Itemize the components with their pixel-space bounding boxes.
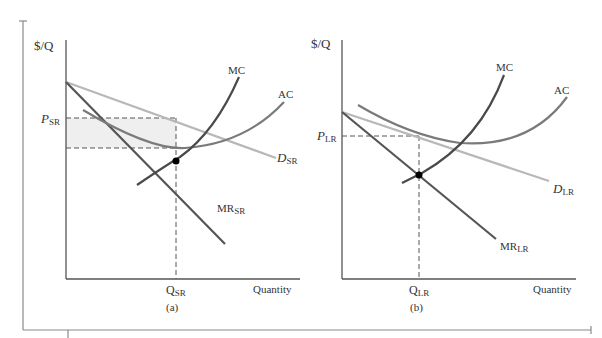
panel-a: $/Q MC AC PSR DSR MRSR QSR Quantity (a) — [34, 38, 300, 314]
quantity-label: QSR — [166, 283, 186, 298]
quantity-label: QLR — [409, 283, 429, 298]
demand-label: DLR — [552, 181, 574, 197]
y-axis-label: $/Q — [34, 38, 54, 53]
mr-mc-intersection-point — [416, 172, 423, 179]
profit-area — [66, 118, 176, 148]
ac-label: AC — [554, 84, 569, 96]
mr-mc-intersection-point — [173, 158, 180, 165]
panel-caption: (b) — [410, 301, 423, 314]
mc-label: MC — [496, 61, 513, 73]
demand-label: DSR — [276, 150, 297, 166]
demand-curve — [342, 112, 549, 181]
panel-caption: (a) — [166, 301, 179, 314]
price-label: PSR — [40, 111, 60, 127]
mc-label: MC — [228, 64, 245, 76]
marginal-revenue-curve — [66, 82, 225, 244]
y-axis-label: $/Q — [311, 36, 331, 51]
marginal-cost-curve — [402, 75, 504, 183]
mr-label: MRSR — [217, 202, 245, 216]
x-axis-label: Quantity — [253, 283, 292, 295]
panel-b: $/Q MC AC PLR DLR MRLR QLR Quantity (b) — [311, 36, 576, 314]
x-axis-label: Quantity — [533, 283, 572, 295]
ac-label: AC — [278, 88, 293, 100]
average-cost-curve — [358, 97, 567, 143]
figure-canvas: $/Q MC AC PSR DSR MRSR QSR Quantity (a) — [0, 0, 602, 338]
mr-label: MRLR — [500, 240, 529, 254]
price-label: PLR — [316, 128, 336, 144]
